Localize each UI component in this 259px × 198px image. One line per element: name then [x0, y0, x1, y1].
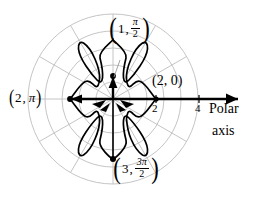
fraction-numerator: 3π [135, 157, 149, 168]
leader-line-top [114, 60, 120, 77]
polar-axis-title-line2: axis [212, 123, 235, 139]
label-point-2-pi: ( 2, π ) [8, 89, 42, 106]
paren-open: ( [9, 89, 14, 106]
label-point-3-3pi-over-2: ( 3, 3π 2 ) [112, 156, 160, 180]
fraction-3pi-over-2: 3π 2 [135, 157, 149, 178]
point-marker-1-pi-over-2 [109, 73, 118, 99]
label-top-radius: 1 [118, 22, 125, 35]
axis-tick-label-4: 4 [195, 103, 201, 114]
fraction-denominator: 2 [131, 29, 140, 39]
label-bottom-separator: , [130, 162, 133, 175]
fraction-denominator: 2 [137, 169, 146, 179]
label-point-2-0: (2, 0) [152, 74, 182, 88]
label-left-radius: 2 [15, 91, 22, 104]
label-left-theta: π [29, 91, 36, 104]
label-bottom-radius: 3 [122, 162, 129, 175]
paren-close: ) [36, 89, 41, 106]
fraction-pi-over-2: π 2 [131, 17, 140, 38]
polar-axis-title-line1: Polar [209, 101, 239, 117]
paren-open: ( [109, 16, 117, 40]
paren-close: ) [142, 16, 150, 40]
fraction-numerator: π [131, 17, 140, 28]
paren-open: ( [113, 156, 121, 180]
label-left-separator: , [23, 91, 26, 104]
paren-close: ) [151, 156, 159, 180]
axis-tick-label-2: 2 [152, 103, 158, 114]
label-top-separator: , [126, 22, 129, 35]
point-marker-2-pi [67, 95, 113, 104]
label-point-1-pi-over-2: ( 1, π 2 ) [108, 16, 151, 40]
polar-graph-figure: ( 1, π 2 ) (2, 0) ( 2, π ) ( 3, 3π 2 ) [0, 0, 259, 198]
